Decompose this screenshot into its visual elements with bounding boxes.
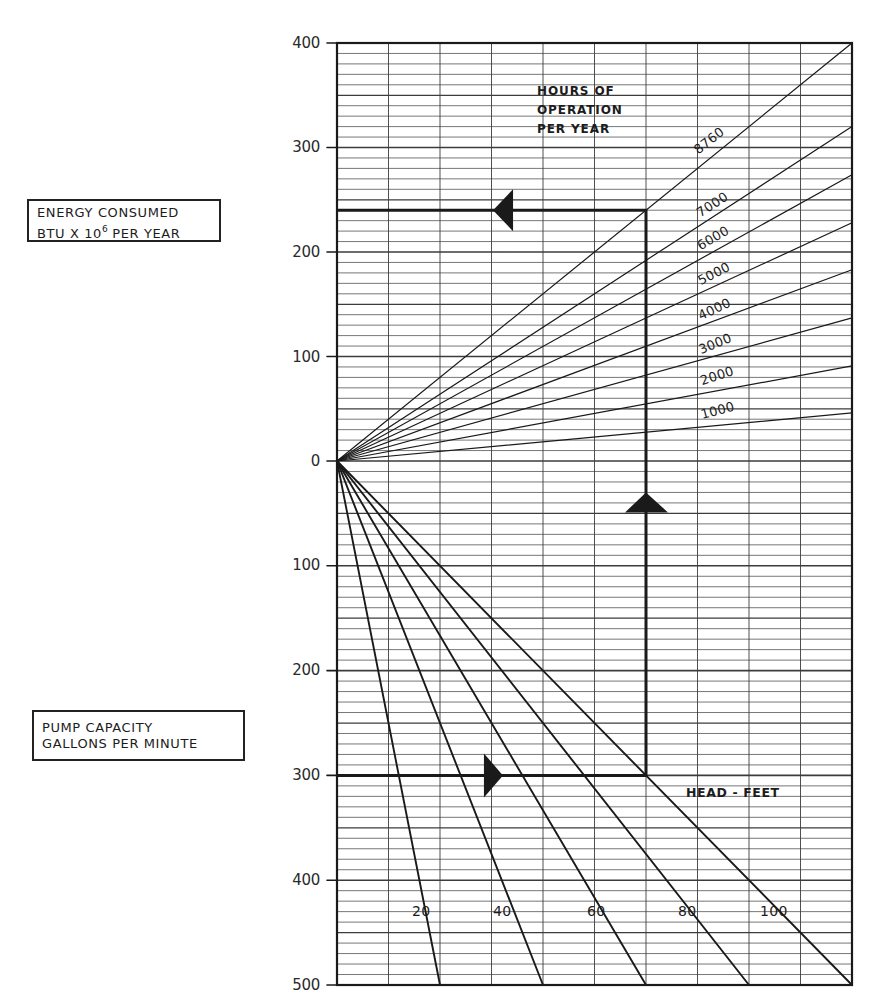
head-line-label-40: 40 [493,903,512,919]
head-feet-axis-label: HEAD - FEET [686,785,780,800]
energy-units-prefix: BTU X 10 [37,226,102,241]
hours-title-line2: OPERATION [537,101,623,120]
energy-axis-title-line2: BTU X 106 PER YEAR [37,221,219,242]
tick-label-energy-300: 300 [292,140,320,155]
arrow-up-icon [625,492,668,512]
head-line-label-20: 20 [412,903,431,919]
tick-label-energy-100: 100 [292,350,320,365]
hours-legend-title: HOURS OF OPERATION PER YEAR [537,82,623,139]
pump-axis-title-line1: PUMP CAPACITY [42,720,243,736]
pump-axis-title-line2: GALLONS PER MINUTE [42,736,243,752]
tick-label-capacity-500: 500 [292,978,320,993]
tick-label-capacity-200: 200 [292,663,320,678]
tick-label-capacity-300: 300 [292,768,320,783]
grid [337,43,852,985]
hours-title-line1: HOURS OF [537,82,623,101]
arrow-left-icon [493,189,513,231]
tick-label-origin-0: 0 [311,454,320,469]
pump-capacity-axis-title-box: PUMP CAPACITY GALLONS PER MINUTE [32,710,245,761]
energy-axis-title-box: ENERGY CONSUMED BTU X 106 PER YEAR [27,199,221,242]
nomograph-chart [0,0,875,1007]
tick-label-capacity-400: 400 [292,873,320,888]
energy-units-suffix: PER YEAR [108,226,181,241]
arrow-right-icon [484,753,503,797]
head-line-label-100: 100 [760,903,788,919]
head-line-label-80: 80 [678,903,697,919]
tick-label-capacity-100: 100 [292,558,320,573]
energy-axis-title-line1: ENERGY CONSUMED [37,205,219,221]
hours-title-line3: PER YEAR [537,120,623,139]
head-line-label-60: 60 [587,903,606,919]
tick-label-energy-400: 400 [292,36,320,51]
axis-ticks [327,43,337,985]
tick-label-energy-200: 200 [292,245,320,260]
